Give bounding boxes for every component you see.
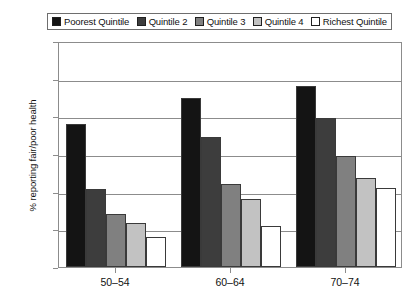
x-tick-label: 70–74 [305,276,385,288]
bar[interactable] [201,137,221,267]
bar[interactable] [146,237,166,267]
bar[interactable] [126,223,146,267]
chart-figure: Poorest QuintileQuintile 2Quintile 3Quin… [0,0,415,305]
legend-entry[interactable]: Quintile 4 [253,17,304,27]
y-tick-mark [53,230,58,231]
x-tick-mark [345,268,346,273]
bar[interactable] [181,98,201,268]
bar[interactable] [296,86,316,267]
bar-group [59,43,174,267]
bar[interactable] [316,118,336,267]
y-tick-mark [53,193,58,194]
bar[interactable] [376,188,396,267]
legend-label: Poorest Quintile [64,17,129,27]
bar[interactable] [86,189,106,267]
y-tick-mark [53,42,58,43]
legend-swatch-icon [52,17,61,26]
bar-group [174,43,289,267]
legend-swatch-icon [137,17,146,26]
legend-label: Quintile 2 [149,17,188,27]
x-tick-mark [230,268,231,273]
legend-entry[interactable]: Richest Quintile [311,17,387,27]
chart-legend: Poorest QuintileQuintile 2Quintile 3Quin… [47,13,392,30]
legend-entry[interactable]: Quintile 2 [137,17,188,27]
x-tick-label: 60–64 [190,276,270,288]
legend-entry[interactable]: Poorest Quintile [52,17,129,27]
y-axis-title: % reporting fair/poor health [27,61,38,251]
legend-swatch-icon [253,17,262,26]
bar[interactable] [356,178,376,267]
y-tick-mark [53,268,58,269]
y-tick-mark [53,155,58,156]
legend-swatch-icon [195,17,204,26]
bar[interactable] [336,156,356,267]
bar[interactable] [106,214,126,267]
bar[interactable] [66,124,86,267]
y-tick-mark [53,80,58,81]
bar[interactable] [261,226,281,267]
plot-area [58,42,402,268]
x-tick-label: 50–54 [75,276,155,288]
x-tick-mark [115,268,116,273]
legend-entry[interactable]: Quintile 3 [195,17,246,27]
legend-label: Quintile 3 [207,17,246,27]
bar-group [288,43,403,267]
bars-layer [59,43,401,267]
legend-label: Richest Quintile [323,17,387,27]
bar[interactable] [241,199,261,267]
x-axis: 50–5460–6470–74 [58,268,402,304]
legend-swatch-icon [311,17,320,26]
y-tick-mark [53,117,58,118]
legend-label: Quintile 4 [265,17,304,27]
bar[interactable] [221,184,241,267]
